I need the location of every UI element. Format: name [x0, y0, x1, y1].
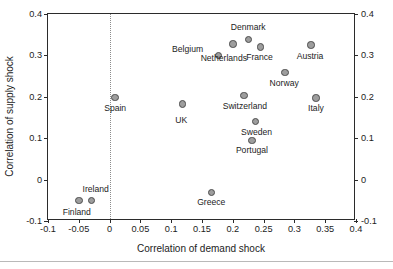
data-point-label: Spain	[104, 104, 126, 113]
y-tick-right	[354, 138, 358, 139]
y-tick-left	[44, 221, 48, 222]
data-point-marker	[111, 94, 118, 101]
data-point-label: Italy	[308, 104, 324, 113]
data-point-label: France	[246, 53, 273, 62]
x-tick-label: -0.1	[40, 224, 56, 235]
y-tick-right	[354, 180, 358, 181]
data-point-label: Norway	[270, 79, 299, 88]
x-tick	[325, 219, 326, 223]
data-point-marker	[248, 137, 255, 144]
plot-area: -0.1-0.0500.050.10.150.20.250.30.350.4 -…	[47, 13, 355, 220]
data-point-marker	[88, 197, 95, 204]
y-tick-label-right: 0.1	[361, 133, 374, 144]
y-tick-right	[354, 55, 358, 56]
x-tick	[140, 219, 141, 223]
y-tick-label-left: 0.3	[29, 50, 42, 61]
data-point-marker	[281, 69, 288, 76]
data-point-marker	[312, 94, 319, 101]
x-tick-label: 0	[107, 224, 112, 235]
y-tick-left	[44, 97, 48, 98]
data-point-marker	[75, 197, 82, 204]
zero-reference-line	[110, 14, 111, 219]
x-tick	[233, 219, 234, 223]
x-tick	[48, 219, 49, 223]
footer-divider	[0, 261, 393, 262]
data-point-label: UK	[175, 116, 187, 125]
x-tick-label: 0.35	[316, 224, 334, 235]
x-tick	[110, 219, 111, 223]
x-tick	[79, 219, 80, 223]
y-tick-label-left: 0.1	[29, 133, 42, 144]
y-tick-label-left: 0.4	[29, 9, 42, 20]
x-tick	[264, 219, 265, 223]
y-tick-label-right: 0.2	[361, 91, 374, 102]
data-point-label: Portugal	[236, 146, 268, 155]
x-axis-title: Correlation of demand shock	[47, 243, 355, 254]
y-tick-left	[44, 180, 48, 181]
x-tick-label: -0.05	[68, 224, 89, 235]
x-tick-label: 0.2	[226, 224, 239, 235]
y-tick-label-right: -0.1	[361, 216, 377, 227]
y-tick-right	[354, 14, 358, 15]
x-tick-label: 0.1	[165, 224, 178, 235]
x-tick-label: 0.3	[288, 224, 301, 235]
y-tick-label-left: 0	[37, 174, 42, 185]
data-point-marker	[240, 92, 247, 99]
x-tick	[171, 219, 172, 223]
data-point-marker	[245, 36, 252, 43]
data-point-label: Denmark	[231, 23, 266, 32]
data-point-marker	[257, 43, 264, 50]
data-point-marker	[229, 40, 236, 47]
y-tick-label-right: 0	[361, 174, 366, 185]
data-point-label: Netherlands	[201, 54, 247, 63]
scatter-chart-figure: Correlation of supply shock -0.1-0.0500.…	[0, 0, 393, 269]
data-point-marker	[208, 189, 215, 196]
data-point-marker	[307, 41, 314, 48]
y-tick-left	[44, 138, 48, 139]
y-tick-label-left: -0.1	[26, 216, 42, 227]
y-tick-label-right: 0.3	[361, 50, 374, 61]
x-tick-label: 0.05	[131, 224, 149, 235]
data-point-label: Finland	[63, 208, 91, 217]
y-tick-left	[44, 55, 48, 56]
y-tick-right	[354, 97, 358, 98]
y-axis-title: Correlation of supply shock	[2, 13, 16, 220]
x-tick-label: 0.25	[255, 224, 273, 235]
x-tick	[202, 219, 203, 223]
x-axis-title-text: Correlation of demand shock	[137, 243, 265, 254]
y-axis-title-text: Correlation of supply shock	[4, 56, 15, 177]
y-tick-left	[44, 14, 48, 15]
data-point-label: Ireland	[83, 185, 109, 194]
data-point-label: Belgium	[172, 45, 203, 54]
x-tick-label: 0.15	[193, 224, 211, 235]
data-point-marker	[179, 100, 186, 107]
y-tick-label-left: 0.2	[29, 91, 42, 102]
data-point-label: Austria	[297, 52, 324, 61]
y-tick-label-right: 0.4	[361, 9, 374, 20]
data-point-label: Sweden	[241, 128, 272, 137]
data-point-marker	[252, 118, 259, 125]
data-point-label: Greece	[197, 198, 225, 207]
x-tick	[294, 219, 295, 223]
data-point-label: Switzerland	[223, 102, 267, 111]
y-tick-right	[354, 221, 358, 222]
